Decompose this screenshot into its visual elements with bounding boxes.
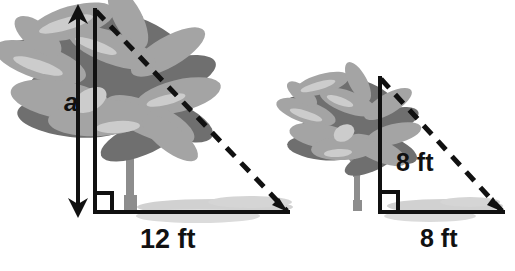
right-figure-group: [273, 58, 503, 222]
left-figure-group: [0, 0, 293, 223]
right-base-label: 8 ft: [420, 224, 458, 253]
left-right-angle-marker: [95, 193, 112, 211]
left-height-label: a: [64, 88, 78, 117]
right-height-label: 8 ft: [396, 148, 434, 177]
right-ground-shadow: [384, 197, 503, 222]
left-ground-shadow: [136, 196, 293, 223]
left-base-label: 12 ft: [140, 224, 196, 255]
